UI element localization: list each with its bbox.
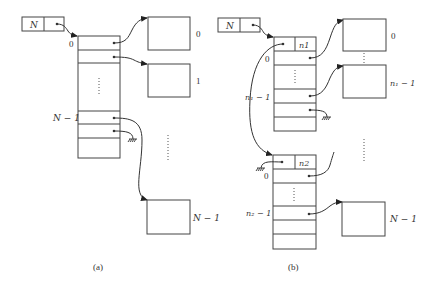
header-label-b: N xyxy=(225,21,235,31)
segment-count-n2: n2 xyxy=(299,159,309,168)
svg-text:0: 0 xyxy=(391,31,396,41)
data-block-last-b: N − 1 xyxy=(342,202,417,236)
data-block-n1-1: n₁ − 1 xyxy=(343,65,415,98)
diagram-b: N n1 0 n₁ − 1 xyxy=(218,18,417,272)
svg-text:0: 0 xyxy=(264,171,269,181)
svg-text:N − 1: N − 1 xyxy=(389,214,417,224)
svg-text:n₁ − 1: n₁ − 1 xyxy=(390,79,415,88)
svg-text:0: 0 xyxy=(196,29,201,39)
svg-text:1: 1 xyxy=(196,76,201,86)
caption-a: (a) xyxy=(93,262,103,272)
svg-text:n₂ − 1: n₂ − 1 xyxy=(246,209,271,218)
segment-2: n2 0 n₂ − 1 xyxy=(246,155,316,249)
caption-b: (b) xyxy=(288,262,299,272)
pointer-array-a: 0 N − 1 xyxy=(52,36,120,158)
linked-block-diagram: N 0 N − 1 xyxy=(0,0,430,285)
diagram-a: N 0 N − 1 xyxy=(22,17,220,272)
segment-count-n1: n1 xyxy=(299,41,309,50)
svg-text:n₁ − 1: n₁ − 1 xyxy=(245,93,270,102)
svg-text:0: 0 xyxy=(265,54,270,64)
data-block-0: 0 xyxy=(148,17,201,50)
header-label-a: N xyxy=(29,20,39,30)
index-label-first: 0 xyxy=(69,39,74,49)
header-box-b: N xyxy=(218,18,273,37)
index-label-last: N − 1 xyxy=(52,113,80,123)
header-box-a: N xyxy=(22,17,77,36)
data-block-0-b: 0 xyxy=(343,19,396,51)
data-block-1: 1 xyxy=(148,64,201,97)
svg-text:N − 1: N − 1 xyxy=(192,213,220,223)
data-block-last: N − 1 xyxy=(147,200,220,234)
segment-1: n1 0 n₁ − 1 xyxy=(245,37,316,131)
